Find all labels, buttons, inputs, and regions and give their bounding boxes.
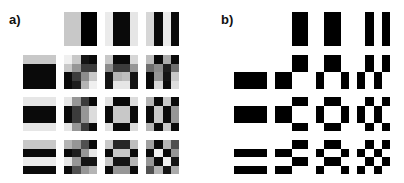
pattern-pixel [341,21,349,30]
pattern-pixel [365,72,373,81]
pattern-pixel [31,97,39,106]
pattern-pixel [333,38,341,47]
pattern-pixel [382,123,390,132]
pattern-pixel [242,149,250,158]
pattern-pixel [113,29,121,38]
pattern-pixel [89,38,97,47]
pattern-pixel [146,149,154,158]
pattern-pixel [40,157,48,166]
pattern-pixel [163,21,171,30]
pattern-cell-b-r3-c2 [316,140,349,174]
pattern-pixel [251,106,259,115]
pattern-pixel [292,123,300,132]
pattern-pixel [171,157,179,166]
pattern-pixel [333,21,341,30]
pattern-pixel [251,81,259,90]
pattern-pixel [105,140,113,149]
pattern-pixel [324,114,332,123]
pattern-pixel [89,157,97,166]
pattern-pixel [171,64,179,73]
pattern-pixel [171,123,179,132]
pattern-pixel [122,106,130,115]
pattern-pixel [105,97,113,106]
pattern-pixel [234,157,242,166]
pattern-pixel [40,55,48,64]
pattern-pixel [64,12,72,21]
pattern-pixel [333,12,341,21]
pattern-pixel [300,157,308,166]
pattern-pixel [374,97,382,106]
pattern-pixel [130,64,138,73]
pattern-pixel [64,140,72,149]
pattern-pixel [374,12,382,21]
pattern-pixel [275,12,283,21]
pattern-pixel [283,64,291,73]
pattern-pixel [122,140,130,149]
pattern-pixel [146,72,154,81]
pattern-pixel [40,166,48,175]
pattern-pixel [23,166,31,175]
pattern-pixel [333,157,341,166]
pattern-cell-b-r2-c2 [316,97,349,131]
pattern-pixel [163,81,171,90]
pattern-pixel [89,149,97,158]
pattern-pixel [234,114,242,123]
pattern-pixel [171,12,179,21]
pattern-pixel [357,114,365,123]
pattern-pixel [130,81,138,90]
pattern-pixel [341,29,349,38]
pattern-pixel [122,123,130,132]
pattern-pixel [163,64,171,73]
pattern-pixel [146,55,154,64]
pattern-pixel [333,72,341,81]
pattern-pixel [242,114,250,123]
pattern-pixel [374,29,382,38]
pattern-pixel [365,29,373,38]
pattern-pixel [365,12,373,21]
pattern-pixel [154,38,162,47]
pattern-pixel [72,166,80,175]
pattern-cell-b-r1-c2 [316,55,349,89]
pattern-pixel [130,29,138,38]
pattern-pixel [365,64,373,73]
pattern-pixel [130,166,138,175]
pattern-pixel [259,55,267,64]
pattern-cell-b-r1-c3 [357,55,390,89]
pattern-pixel [333,123,341,132]
pattern-pixel [130,123,138,132]
pattern-pixel [31,81,39,90]
pattern-pixel [72,38,80,47]
pattern-cell-a-r2-c0 [23,97,56,131]
pattern-pixel [324,64,332,73]
pattern-pixel [374,81,382,90]
pattern-pixel [40,97,48,106]
pattern-pixel [275,140,283,149]
pattern-pixel [316,81,324,90]
pattern-pixel [130,21,138,30]
pattern-pixel [81,114,89,123]
pattern-pixel [259,123,267,132]
pattern-pixel [316,12,324,21]
pattern-pixel [154,64,162,73]
pattern-pixel [105,81,113,90]
pattern-pixel [122,149,130,158]
pattern-pixel [275,123,283,132]
pattern-pixel [31,106,39,115]
pattern-pixel [163,140,171,149]
pattern-pixel [251,97,259,106]
pattern-pixel [81,64,89,73]
pattern-pixel [275,157,283,166]
pattern-pixel [171,114,179,123]
pattern-pixel [382,38,390,47]
pattern-pixel [64,72,72,81]
pattern-pixel [341,72,349,81]
pattern-pixel [31,72,39,81]
pattern-pixel [324,123,332,132]
pattern-pixel [171,81,179,90]
pattern-pixel [341,114,349,123]
pattern-pixel [300,123,308,132]
pattern-pixel [259,81,267,90]
pattern-pixel [259,157,267,166]
pattern-pixel [163,166,171,175]
pattern-pixel [382,114,390,123]
